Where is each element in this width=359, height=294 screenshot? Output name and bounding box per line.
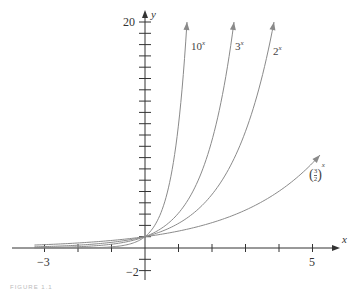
y-tick-label-20: 20 <box>123 16 135 28</box>
curve-label-3-2x: (32)x <box>309 168 325 183</box>
curve-10^x <box>34 22 187 248</box>
exponential-chart <box>0 0 359 294</box>
x-axis-label: x <box>342 234 347 245</box>
y-axis-label: y <box>151 9 156 20</box>
figure-caption: FIGURE 1.1 <box>10 284 53 290</box>
x-tick-label-5: 5 <box>309 256 315 268</box>
arrowhead-icon <box>230 22 236 30</box>
curve-3^x <box>34 22 234 248</box>
curve-label-2x: 2x <box>273 45 282 57</box>
curve-label-3x: 3x <box>235 40 244 52</box>
arrowhead-icon <box>270 22 276 30</box>
curve-label-10x: 10x <box>191 40 205 52</box>
x-tick-label-neg3: −3 <box>37 256 50 268</box>
arrowhead-icon <box>183 22 189 30</box>
y-tick-label-neg2: −2 <box>126 266 139 278</box>
curve-(3/2)^x <box>34 155 320 245</box>
